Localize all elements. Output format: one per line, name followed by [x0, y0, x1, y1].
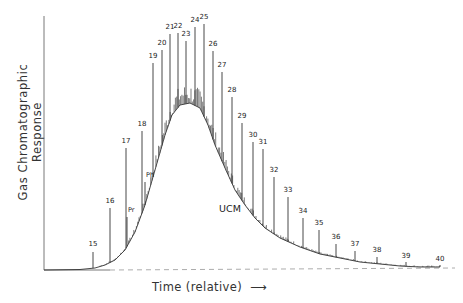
peak-label-35: 35 [315, 219, 324, 227]
peak-label-pr: Pr [128, 206, 135, 214]
peak-label-20: 20 [158, 39, 167, 47]
peak-label-30: 30 [249, 131, 258, 139]
peak-label-33: 33 [284, 186, 293, 194]
peak-label-16: 16 [106, 197, 115, 205]
peak-label-23: 23 [182, 30, 191, 38]
peak-label-18: 18 [138, 120, 147, 128]
chromatogram-plot: 151617Pr18Ph1920212223242526272829303132… [0, 0, 463, 303]
peak-label-22: 22 [174, 22, 183, 30]
x-axis-label: Time (relative) ⟶ [152, 280, 267, 294]
peak-label-39: 39 [402, 252, 411, 260]
x-axis-label-text: Time (relative) [152, 280, 242, 294]
y-axis-label: Gas Chromatographic Response [16, 32, 44, 232]
peak-label-29: 29 [238, 112, 247, 120]
peak-label-31: 31 [259, 138, 268, 146]
arrow-right-icon: ⟶ [250, 280, 267, 294]
peak-label-38: 38 [373, 246, 382, 254]
ucm-label: UCM [219, 203, 241, 214]
peak-label-37: 37 [351, 240, 360, 248]
peak-label-27: 27 [218, 61, 227, 69]
peak-label-40: 40 [436, 255, 445, 263]
peak-label-34: 34 [299, 207, 308, 215]
peak-label-32: 32 [270, 166, 279, 174]
peak-label-36: 36 [332, 233, 341, 241]
peaks: 151617Pr18Ph1920212223242526272829303132… [89, 13, 445, 268]
peak-label-28: 28 [228, 86, 237, 94]
peak-label-17: 17 [122, 137, 131, 145]
peak-label-15: 15 [89, 240, 98, 248]
peak-label-26: 26 [209, 40, 218, 48]
dashed-baseline [110, 268, 455, 270]
peak-label-25: 25 [200, 13, 209, 21]
peak-label-19: 19 [149, 52, 158, 60]
